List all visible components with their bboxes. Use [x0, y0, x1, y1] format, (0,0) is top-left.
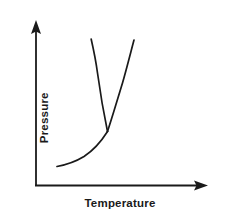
- sublimation-curve: [57, 132, 108, 167]
- vaporization-curve: [108, 40, 135, 132]
- y-axis-label: Pressure: [39, 73, 51, 163]
- fusion-curve: [91, 39, 107, 131]
- plot-canvas: [0, 0, 225, 222]
- phase-diagram-figure: Temperature Pressure: [0, 0, 225, 222]
- x-axis-label: Temperature: [35, 198, 205, 210]
